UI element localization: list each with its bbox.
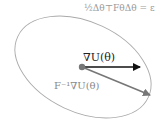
gradient-label: ∇U(θ) (83, 51, 115, 64)
diagram-canvas: ½Δθ⊤FθΔθ = ε ∇U(θ) F⁻¹∇U(θ) (0, 0, 168, 125)
natural-gradient-label: F⁻¹∇U(θ) (54, 80, 99, 91)
constraint-label: ½Δθ⊤FθΔθ = ε (84, 3, 155, 13)
origin-dot (79, 64, 85, 70)
